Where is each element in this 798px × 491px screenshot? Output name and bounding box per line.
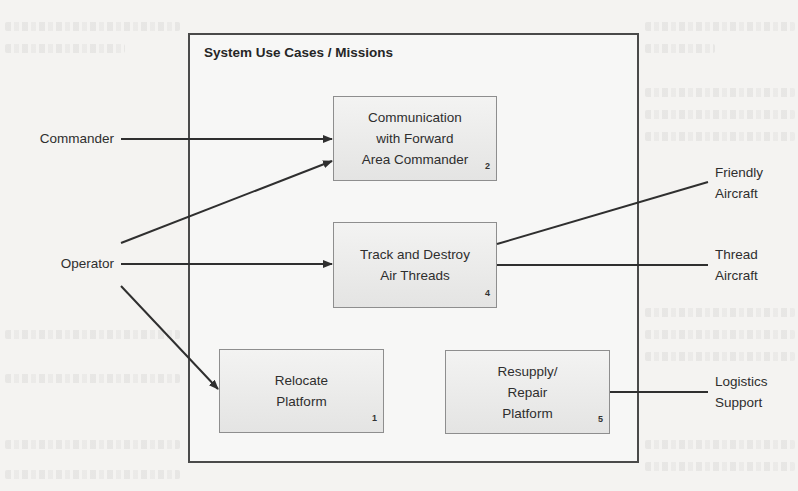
bleed-line	[645, 462, 795, 471]
actor-friendly-aircraft: Friendly Aircraft	[715, 162, 763, 204]
use-case-number: 2	[485, 156, 490, 177]
use-case-number: 1	[372, 408, 377, 429]
use-case-track-destroy[interactable]: Track and Destroy Air Threads 4	[333, 222, 497, 308]
bleed-line	[5, 440, 180, 449]
actor-logistics-support: Logistics Support	[715, 371, 768, 413]
actor-operator: Operator	[20, 253, 114, 274]
use-case-relocate-platform[interactable]: Relocate Platform 1	[219, 349, 384, 433]
bleed-line	[645, 330, 795, 339]
bleed-line	[5, 470, 180, 479]
bleed-line	[645, 308, 795, 317]
bleed-line	[5, 374, 180, 383]
bleed-line	[5, 44, 125, 53]
bleed-line	[645, 110, 795, 119]
system-title: System Use Cases / Missions	[204, 45, 393, 60]
bleed-line	[5, 330, 180, 339]
bleed-line	[645, 22, 795, 31]
bleed-line	[645, 440, 795, 449]
use-case-number: 4	[485, 283, 490, 304]
actor-commander: Commander	[20, 128, 114, 149]
bleed-line	[645, 88, 795, 97]
use-case-communication[interactable]: Communication with Forward Area Commande…	[333, 96, 497, 181]
bleed-line	[645, 44, 715, 53]
bleed-line	[645, 352, 795, 361]
bleed-line	[5, 22, 180, 31]
use-case-label: Relocate Platform	[269, 370, 334, 412]
use-case-resupply-repair[interactable]: Resupply/ Repair Platform 5	[445, 350, 610, 434]
use-case-label: Resupply/ Repair Platform	[491, 361, 563, 424]
use-case-number: 5	[598, 409, 603, 430]
use-case-label: Track and Destroy Air Threads	[354, 244, 476, 286]
bleed-line	[645, 132, 795, 141]
actor-thread-aircraft: Thread Aircraft	[715, 244, 758, 286]
use-case-label: Communication with Forward Area Commande…	[356, 107, 475, 170]
